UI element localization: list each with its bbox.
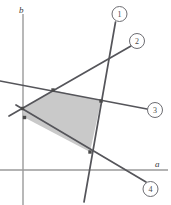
vertex-marker: [51, 88, 54, 91]
callout-label-2: 2: [135, 37, 139, 46]
feasible-region-polygon: [23, 90, 102, 152]
x-axis-label: a: [155, 159, 160, 169]
y-axis-label: b: [19, 5, 24, 15]
constraint-plot-figure: 1 2 3 4 b a: [0, 0, 171, 205]
feasible-region-group: [23, 90, 102, 152]
vertex-marker: [99, 99, 102, 102]
callout-label-3: 3: [153, 106, 157, 115]
plot-canvas: 1 2 3 4 b a: [0, 0, 171, 205]
vertex-marker: [88, 150, 91, 153]
callout-label-1: 1: [118, 10, 122, 19]
callout-label-4: 4: [149, 185, 153, 194]
vertex-marker: [23, 116, 26, 119]
vertex-marker: [21, 107, 24, 110]
